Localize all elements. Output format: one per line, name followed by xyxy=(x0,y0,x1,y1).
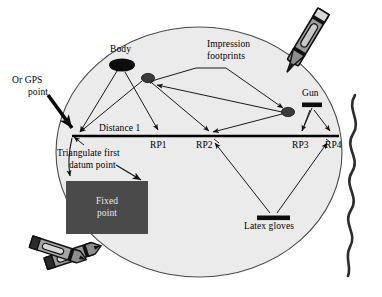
label-or-gps-line2: point xyxy=(28,87,48,98)
crayon-icon xyxy=(281,8,329,76)
label-or-gps-line1: Or GPS xyxy=(12,75,42,86)
gun-marker xyxy=(302,103,322,108)
label-triangulate-line1: Triangulate first xyxy=(57,148,120,159)
crossed-crayons-icon xyxy=(29,236,103,269)
label-fixed-point-line1: Fixed xyxy=(90,196,124,207)
wavy-line-icon xyxy=(348,95,356,276)
label-rp3: RP3 xyxy=(292,140,309,151)
label-rp4: RP4 xyxy=(325,140,342,151)
label-rp1: RP1 xyxy=(150,140,167,151)
footprint-marker-2 xyxy=(281,107,294,116)
label-rp2: RP2 xyxy=(196,140,213,151)
latex-gloves-marker xyxy=(257,216,290,221)
label-impression-footprints-line1: Impression xyxy=(207,39,250,50)
label-distance-1: Distance 1 xyxy=(99,123,140,134)
label-impression-footprints-line2: footprints xyxy=(207,51,245,62)
diagram-canvas: Body Impression footprints Or GPS point … xyxy=(0,0,382,297)
label-fixed-point-line2: point xyxy=(90,208,124,219)
footprint-marker-1 xyxy=(141,73,154,82)
label-latex-gloves: Latex gloves xyxy=(244,221,294,232)
label-triangulate-line2: datum point xyxy=(69,160,116,171)
body-marker xyxy=(109,58,135,71)
label-gun: Gun xyxy=(302,88,319,99)
label-body: Body xyxy=(110,44,131,55)
